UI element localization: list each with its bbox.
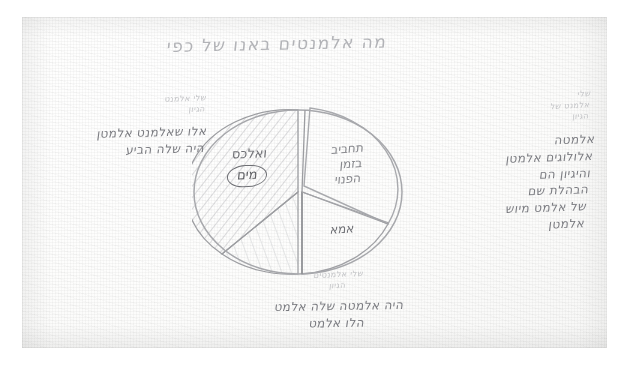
annotation-left-body-line-1: היה שלה הביע [54, 139, 206, 160]
annotation-bottom-body-line-1: הלו אלמט [254, 313, 420, 333]
pie-slice-left-label: ואלכס מים [226, 145, 271, 187]
annotation-bottom-body-line-0: היה אלמטה שלה אלמט [256, 296, 422, 316]
annotation-right-header: שלי אלמנט של הגיון [477, 89, 592, 127]
annotation-left-body: אלו שאלמנט אלמטן היה שלה הביע [54, 123, 208, 161]
annotation-bottom-body: היה אלמטה שלה אלמט הלו אלמט [254, 296, 423, 333]
annotation-right-body-line-5: אלמטן [472, 216, 586, 237]
pie-slice-small-label: אמא [329, 221, 354, 237]
annotation-bottom-header: שלי אלמנטים הגיון [255, 266, 421, 295]
annotation-left: שלי אלמנט הגיון אלו שאלמנט אלמטן היה שלה… [56, 96, 206, 158]
pie-divider-right [302, 192, 389, 223]
scanned-page: מה אלמנטים באנו של כפי [0, 0, 629, 371]
pie-slice-right-label-line-2: הפנוי [328, 171, 362, 188]
annotation-bottom: שלי אלמנטים הגיון היה אלמטה שלה אלמט הלו… [256, 270, 420, 331]
pie-slice-small-label-line-0: אמא [329, 221, 354, 237]
pie-chart-svg [192, 106, 404, 278]
pie-chart [192, 106, 404, 278]
pie-slice-left-circled-label: מים [226, 165, 269, 188]
annotation-left-header: שלי אלמנט הגיון [55, 93, 207, 120]
annotation-right-body: אלמטה אלולוגים אלמטן והיגיון הם הבהלת שם… [472, 131, 596, 236]
pie-slice-right-label: תחביב בזמן הפנוי [328, 141, 364, 189]
pie-slice-left-label-line-0: ואלכס [228, 145, 270, 163]
annotation-right: שלי אלמנט של הגיון אלמטה אלולוגים אלמטן … [478, 92, 590, 234]
